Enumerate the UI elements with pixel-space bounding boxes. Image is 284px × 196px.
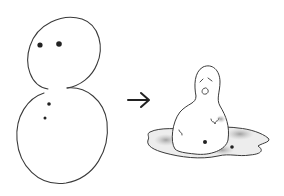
melted-body (172, 66, 228, 155)
melted-dot-2 (230, 145, 234, 149)
arrow-icon (128, 93, 149, 107)
snowman-eye-right (56, 41, 62, 47)
melted-snowman (148, 66, 269, 158)
snowman-eye-left (37, 42, 42, 47)
melted-dot-1 (203, 140, 207, 144)
snowman (17, 17, 108, 183)
sketch-canvas (0, 0, 284, 196)
sketch-scene: Hand-drawn sketch: a snowman, an arrow, … (0, 0, 284, 196)
snowman-head (28, 17, 101, 89)
snowman-button-bottom (44, 117, 47, 120)
snowman-button-top (47, 102, 51, 106)
snowman-body (17, 88, 108, 184)
